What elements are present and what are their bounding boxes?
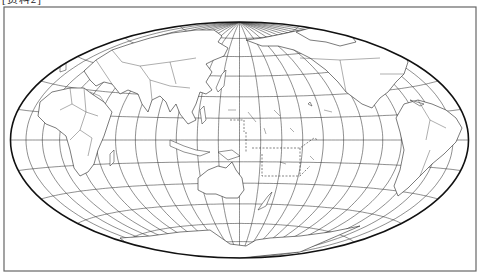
world-map bbox=[0, 0, 480, 275]
